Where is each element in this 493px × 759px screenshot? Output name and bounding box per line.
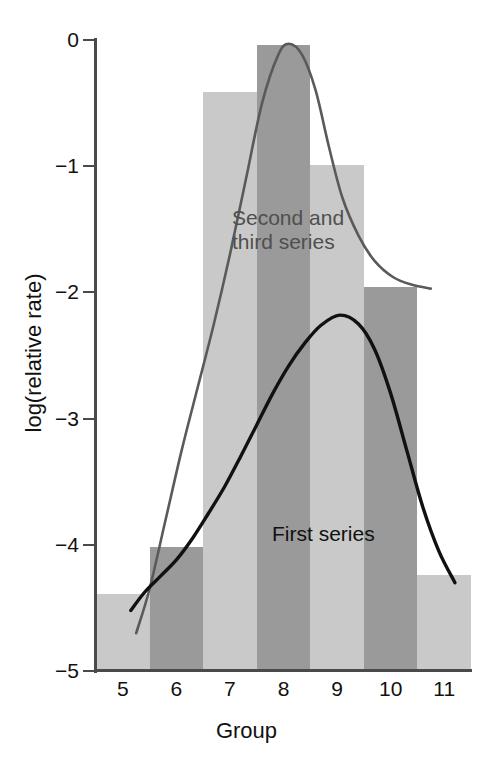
y-tick-label-1: −1 bbox=[35, 155, 79, 176]
x-tick-label-6: 6 bbox=[146, 678, 206, 699]
y-axis-line bbox=[94, 38, 97, 673]
bar-dark-group-6 bbox=[150, 547, 204, 671]
x-tick-label-9: 9 bbox=[307, 678, 367, 699]
x-tick-label-8: 8 bbox=[254, 678, 314, 699]
x-tick-label-10: 10 bbox=[361, 678, 421, 699]
bar-light-group-5 bbox=[96, 594, 150, 671]
y-tick-0 bbox=[83, 39, 96, 41]
y-tick-label-5: −5 bbox=[35, 660, 79, 681]
y-tick-label-4: −4 bbox=[35, 534, 79, 555]
bar-dark-group-8 bbox=[257, 45, 311, 671]
x-axis-title: Group bbox=[0, 718, 493, 744]
bars-layer bbox=[0, 0, 493, 671]
bar-dark-group-10 bbox=[364, 287, 418, 671]
annotation-second-and-third-series: Second and third series bbox=[232, 206, 344, 254]
y-tick-4 bbox=[83, 544, 96, 546]
y-tick-2 bbox=[83, 291, 96, 293]
bar-light-group-11 bbox=[417, 575, 471, 671]
y-axis-title: log(relative rate) bbox=[21, 223, 47, 483]
y-tick-label-0: 0 bbox=[35, 29, 79, 50]
y-tick-5 bbox=[83, 670, 96, 672]
bar-light-group-7 bbox=[203, 92, 257, 671]
y-tick-3 bbox=[83, 418, 96, 420]
x-tick-label-5: 5 bbox=[93, 678, 153, 699]
y-tick-1 bbox=[83, 165, 96, 167]
x-axis-line bbox=[94, 669, 472, 672]
x-tick-label-11: 11 bbox=[414, 678, 474, 699]
x-tick-label-7: 7 bbox=[200, 678, 260, 699]
annotation-first-series: First series bbox=[272, 522, 375, 546]
chart-figure: 0−1−2−3−4−5 567891011 Second and third s… bbox=[0, 0, 493, 759]
